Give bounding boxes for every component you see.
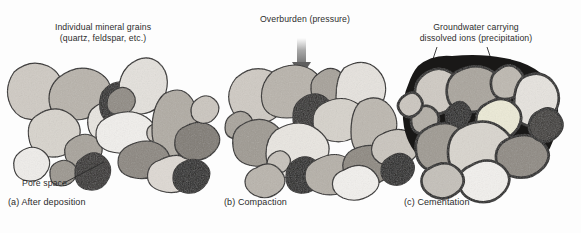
panel-c-annotation: Groundwater carrying dissolved ions (pre… xyxy=(396,22,556,44)
panel-b-annotation: Overburden (pressure) xyxy=(230,14,380,25)
panel-a-caption: (a) After deposition xyxy=(8,197,86,207)
panel-b-caption: (b) Compaction xyxy=(224,197,287,207)
panel-b-grains xyxy=(225,62,419,200)
panel-c-cemented-mass xyxy=(398,55,563,202)
pore-space-label: Pore space xyxy=(22,178,67,189)
panel-a-annotation: Individual mineral grains (quartz, felds… xyxy=(18,22,188,44)
panel-a-grains xyxy=(7,58,219,193)
lithification-diagram: Individual mineral grains (quartz, felds… xyxy=(0,0,581,233)
panel-c-caption: (c) Cementation xyxy=(404,197,470,207)
